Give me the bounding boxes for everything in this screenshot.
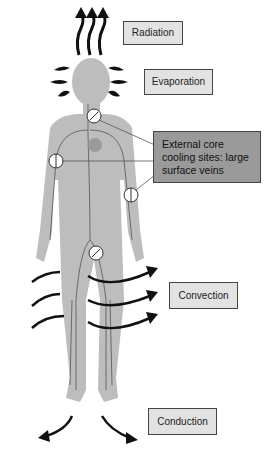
conduction-label: Conduction [148,408,217,435]
convection-label: Convection [169,282,238,309]
cooling-sites-label: External core cooling sites: large surfa… [153,131,261,183]
conduction-arrows [46,416,130,438]
radiation-label: Radiation [123,21,183,45]
radiation-arrows [77,14,105,55]
convection-arrowheads [146,266,158,324]
conduction-arrowheads [38,430,138,444]
heart-icon [88,138,102,152]
radiation-arrowheads [75,7,109,18]
convection-arrows [32,272,150,328]
evaporation-label: Evaporation [144,69,213,95]
body-diagram [0,0,264,450]
